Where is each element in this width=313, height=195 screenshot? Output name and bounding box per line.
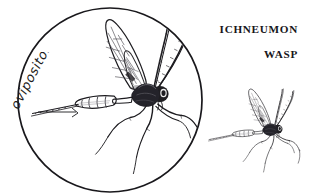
ovipositor-label-svg: ovipositor <box>12 52 108 122</box>
ovipositor-label-text: ovipositor <box>12 52 54 111</box>
small-wasp <box>209 89 301 172</box>
title-block: ICHNEUMON WASP <box>196 24 308 60</box>
title-line-ichneumon: ICHNEUMON <box>196 24 298 35</box>
ovipositor-label: ovipositor <box>12 52 108 122</box>
illustration-canvas: ovipositor ICHNEUMON WASP <box>0 0 313 195</box>
title-line-wasp: WASP <box>196 49 298 60</box>
